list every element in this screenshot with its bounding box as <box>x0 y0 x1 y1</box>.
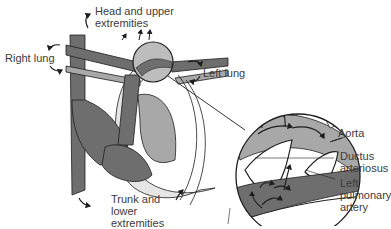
label-head-line2: extremities <box>95 17 174 29</box>
label-lpa-line2: pulmonary <box>340 189 391 201</box>
label-lpa-line1: Left <box>340 177 391 189</box>
label-head-upper-extremities: Head and upper extremities <box>95 5 174 29</box>
label-ductus-line1: Ductus <box>340 150 388 162</box>
label-left-lung: Left lung <box>203 67 245 79</box>
label-left-pulmonary-artery: Left pulmonary artery <box>340 177 391 213</box>
label-ductus-line2: arteriosus <box>340 162 388 174</box>
label-trunk-lower-extremities: Trunk and lower extremities <box>111 193 164 229</box>
label-aorta: Aorta <box>338 127 364 139</box>
label-trunk-line3: extremities <box>111 217 164 229</box>
label-ductus-arteriosus: Ductus arteriosus <box>340 150 388 174</box>
label-head-line1: Head and upper <box>95 5 174 17</box>
label-trunk-line1: Trunk and <box>111 193 164 205</box>
heart-schematic <box>66 30 245 205</box>
label-right-lung: Right lung <box>5 52 55 64</box>
label-trunk-line2: lower <box>111 205 164 217</box>
label-lpa-line3: artery <box>340 201 391 213</box>
